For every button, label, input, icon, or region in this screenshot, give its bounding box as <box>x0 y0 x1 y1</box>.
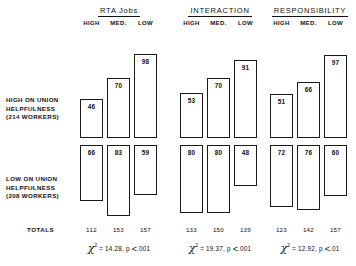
bar: 66 <box>80 145 103 201</box>
column-header: LOW <box>134 20 157 26</box>
column-header: HIGH <box>180 20 203 26</box>
chi-square-annotation: χ2 = 14.28, p <.001 <box>78 242 160 255</box>
bar: 48 <box>234 145 257 186</box>
total-value: 123 <box>270 226 293 233</box>
bar: 76 <box>297 145 320 210</box>
p-value: .001 <box>238 245 251 252</box>
bar: 53 <box>180 93 203 138</box>
bar-value-label: 80 <box>181 149 202 156</box>
bar: 59 <box>134 145 157 195</box>
chi-equals-sign: = <box>290 245 298 252</box>
bar-value-label: 98 <box>135 58 156 65</box>
bar: 66 <box>297 82 320 138</box>
row-label-high-line-2: HELPFULNESS <box>6 105 82 114</box>
total-value: 142 <box>297 226 320 233</box>
row-label-high-union-helpfulness: HIGH ON UNION HELPFULNESS (214 WORKERS) <box>6 96 82 122</box>
bar-value-label: 70 <box>208 82 229 89</box>
column-header: HIGH <box>80 20 103 26</box>
bar: 51 <box>270 94 293 138</box>
row-label-low-line-2: HELPFULNESS <box>6 184 82 193</box>
column-header: LOW <box>324 20 347 26</box>
bar-value-label: 80 <box>208 149 229 156</box>
chart-panel: RESPONSIBILITYHIGHMED.LOW516697727660123… <box>268 0 352 266</box>
bar-value-label: 91 <box>235 64 256 71</box>
column-header: LOW <box>234 20 257 26</box>
bar-value-label: 97 <box>325 59 346 66</box>
column-header: MED. <box>107 20 130 26</box>
bar: 80 <box>180 145 203 213</box>
panel-title-text: RESPONSIBILITY <box>272 6 348 17</box>
bar: 60 <box>324 145 347 196</box>
bar-value-label: 59 <box>135 149 156 156</box>
bar-value-label: 53 <box>181 97 202 104</box>
bar: 97 <box>324 55 347 138</box>
p-label: , p <box>223 245 233 252</box>
total-value: 112 <box>80 226 103 233</box>
bar-value-label: 60 <box>325 149 346 156</box>
panel-title-text: INTERACTION <box>188 6 251 17</box>
bar: 83 <box>107 145 130 216</box>
p-value: .001 <box>137 245 150 252</box>
bar: 91 <box>234 60 257 138</box>
bar-value-label: 70 <box>108 82 129 89</box>
chart-panel: RTA JobsHIGHMED.LOW467098668359112153157… <box>78 0 160 266</box>
bar: 80 <box>207 145 230 213</box>
chi-square-value: 12.92 <box>298 245 315 252</box>
column-header-row: HIGHMED.LOW <box>78 20 160 30</box>
bar: 70 <box>207 78 230 138</box>
chi-square-annotation: χ2 = 12.92, p <.01 <box>268 242 352 255</box>
row-label-low-line-1: LOW ON UNION <box>6 175 82 184</box>
column-header-row: HIGHMED.LOW <box>178 20 262 30</box>
total-value: 139 <box>234 226 257 233</box>
chi-equals-sign: = <box>198 245 206 252</box>
row-label-low-line-3: (208 WORKERS) <box>6 192 82 201</box>
total-value: 133 <box>180 226 203 233</box>
chi-square-value: 14.28 <box>105 245 122 252</box>
bar-value-label: 66 <box>298 86 319 93</box>
total-value: 157 <box>324 226 347 233</box>
bar-value-label: 72 <box>271 149 292 156</box>
bar: 70 <box>107 78 130 138</box>
total-value: 153 <box>107 226 130 233</box>
panel-title-text: RTA Jobs <box>98 6 140 17</box>
bar: 46 <box>80 99 103 138</box>
totals-row-label: TOTALS <box>27 226 54 233</box>
column-header: MED. <box>207 20 230 26</box>
panel-title: RESPONSIBILITY <box>268 6 352 17</box>
figure-canvas: HIGH ON UNION HELPFULNESS (214 WORKERS) … <box>0 0 356 266</box>
chi-equals-sign: = <box>97 245 105 252</box>
bar: 98 <box>134 54 157 138</box>
bar-value-label: 83 <box>108 149 129 156</box>
p-value: .01 <box>330 245 339 252</box>
bar-value-label: 46 <box>81 103 102 110</box>
column-header-row: HIGHMED.LOW <box>268 20 352 30</box>
p-label: , p <box>315 245 325 252</box>
bar-value-label: 66 <box>81 149 102 156</box>
total-value: 150 <box>207 226 230 233</box>
chart-panel: INTERACTIONHIGHMED.LOW537091808048133150… <box>178 0 262 266</box>
chi-square-annotation: χ2 = 19.37, p <.001 <box>178 242 262 255</box>
p-label: , p <box>122 245 132 252</box>
row-label-high-line-3: (214 WORKERS) <box>6 113 82 122</box>
bar-value-label: 76 <box>298 149 319 156</box>
panel-title: RTA Jobs <box>78 6 160 17</box>
column-header: MED. <box>297 20 320 26</box>
column-header: HIGH <box>270 20 293 26</box>
bar-value-label: 48 <box>235 149 256 156</box>
row-label-high-line-1: HIGH ON UNION <box>6 96 82 105</box>
row-label-low-union-helpfulness: LOW ON UNION HELPFULNESS (208 WORKERS) <box>6 175 82 201</box>
bar: 72 <box>270 145 293 207</box>
total-value: 157 <box>134 226 157 233</box>
bar-value-label: 51 <box>271 98 292 105</box>
chi-square-value: 19.37 <box>206 245 223 252</box>
panel-title: INTERACTION <box>178 6 262 17</box>
